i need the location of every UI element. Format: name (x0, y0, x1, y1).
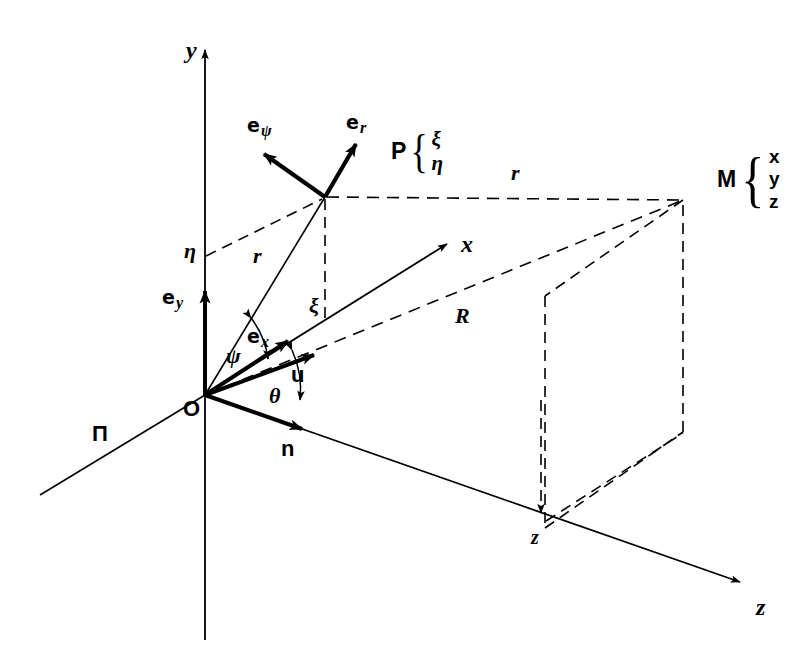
n-vector-label: n (281, 438, 294, 460)
z-to-M-dashed (546, 433, 683, 521)
point-P-brace: { (411, 133, 428, 171)
r-to-M-label: r (511, 162, 520, 184)
point-P-coord-eta: η (431, 152, 443, 176)
R-to-M-label: R (455, 305, 470, 327)
point-M-coord-x: x (769, 146, 780, 168)
e-r-label: e r (346, 113, 366, 132)
angle-theta-label: θ (269, 385, 280, 407)
e-y-glyph: e (162, 288, 175, 307)
r-to-M-dashed (327, 197, 683, 200)
point-M-brace: { (741, 154, 764, 205)
eta-projection-dashed (206, 199, 322, 256)
plane-pi-label: Π (92, 423, 108, 445)
point-M-coord-y: y (769, 168, 780, 190)
point-P-coord-xi: ξ (431, 128, 443, 152)
coordinate-diagram (0, 0, 792, 668)
angle-psi-label: ψ (226, 345, 241, 367)
xi-label: ξ (309, 295, 319, 317)
point-M-label: M (717, 168, 736, 191)
z-drop-label: z (531, 527, 539, 547)
figure-canvas: y x z O Π e ψ e r e y e x u n ψ θ r r R … (0, 0, 792, 668)
point-M-group: M { x y z (717, 146, 780, 213)
e-psi-label: e ψ (247, 116, 272, 135)
e-r-glyph: e (346, 113, 359, 132)
eta-label: η (184, 240, 196, 262)
e-y-subscript: y (176, 295, 183, 311)
radius-r-line (205, 197, 325, 395)
n-vector-arrow (205, 395, 302, 429)
point-P-coord-list: ξ η (431, 128, 443, 175)
z-axis-label: z (756, 595, 765, 619)
e-x-label: e x (247, 327, 269, 346)
point-P-label: P (391, 140, 406, 163)
e-psi-subscript: ψ (261, 123, 272, 139)
point-P-group: P { ξ η (391, 128, 443, 175)
e-x-subscript: x (261, 334, 269, 350)
point-M-coord-list: x y z (769, 146, 780, 213)
plane-pi-line (40, 395, 205, 495)
e-r-vector-arrow (325, 144, 356, 197)
x-axis-label: x (461, 232, 473, 256)
y-axis-label: y (186, 38, 197, 62)
R-to-M-dashed (205, 200, 683, 395)
e-psi-glyph: e (247, 116, 260, 135)
e-y-label: e y (162, 288, 183, 307)
e-x-glyph: e (247, 327, 260, 346)
face-edge-bottom (545, 432, 683, 528)
e-r-subscript: r (360, 120, 366, 136)
point-M-coord-z: z (769, 191, 780, 213)
origin-label: O (183, 398, 200, 420)
u-vector-label: u (291, 364, 304, 386)
radius-r-label: r (253, 245, 262, 267)
e-psi-vector-arrow (264, 154, 325, 197)
